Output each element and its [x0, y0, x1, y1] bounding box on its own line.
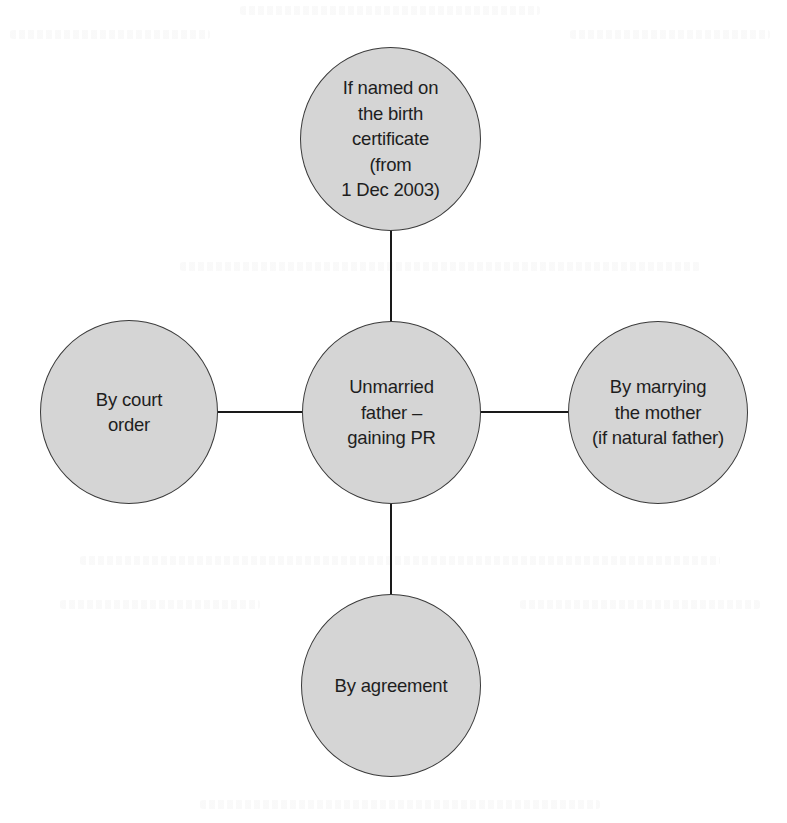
- node-named-on-birth-certificate: If named on the birth certificate (from …: [300, 47, 481, 231]
- node-by-agreement: By agreement: [301, 594, 481, 777]
- node-label: Unmarried father – gaining PR: [347, 374, 436, 451]
- node-court-order: By court order: [40, 320, 218, 504]
- diagram-canvas: If named on the birth certificate (from …: [0, 0, 787, 823]
- node-label: By marrying the mother (if natural fathe…: [592, 374, 724, 451]
- node-marrying-the-mother: By marrying the mother (if natural fathe…: [568, 321, 748, 504]
- node-label: If named on the birth certificate (from …: [341, 75, 440, 203]
- node-label: By court order: [96, 387, 162, 438]
- node-label: By agreement: [335, 673, 448, 699]
- node-hub-unmarried-father: Unmarried father – gaining PR: [302, 321, 481, 504]
